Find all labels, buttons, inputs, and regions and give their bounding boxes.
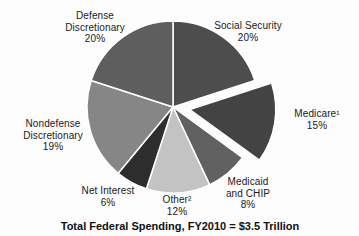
- label-defense-discretionary: Defense Discretionary 20%: [65, 10, 125, 45]
- label-nondefense-discretionary: Nondefense Discretionary 19%: [23, 118, 83, 153]
- label-social-security: Social Security 20%: [214, 20, 282, 43]
- label-medicare: Medicare¹ 15%: [294, 108, 339, 131]
- label-net-interest: Net Interest 6%: [82, 185, 135, 208]
- label-medicaid-and-chip: Medicaid and CHIP 8%: [226, 176, 270, 211]
- chart-title: Total Federal Spending, FY2010 = $3.5 Tr…: [61, 220, 300, 232]
- label-other: Other² 12%: [163, 194, 192, 217]
- federal-spending-pie-chart-figure: Defense Discretionary 20% Social Securit…: [0, 0, 359, 236]
